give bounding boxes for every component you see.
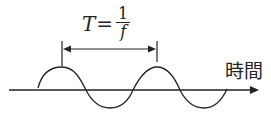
left-arrowhead-icon bbox=[63, 46, 71, 53]
sine-wave-period-diagram: T = 1 f 時間 bbox=[0, 0, 271, 122]
fraction: 1 f bbox=[116, 6, 130, 41]
sine-wave bbox=[38, 67, 227, 108]
fraction-numerator: 1 bbox=[118, 6, 128, 22]
formula-lhs: T bbox=[82, 12, 95, 36]
formula-equals: = bbox=[96, 12, 113, 36]
fraction-denominator: f bbox=[120, 23, 126, 41]
period-formula: T = 1 f bbox=[82, 6, 130, 41]
time-axis-label: 時間 bbox=[225, 56, 263, 83]
right-arrowhead-icon bbox=[148, 46, 156, 53]
axis-arrow-icon bbox=[250, 86, 259, 94]
